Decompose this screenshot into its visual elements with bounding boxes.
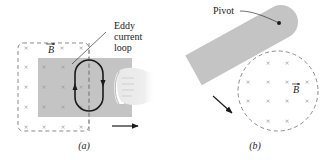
svg-text:×: ×: [304, 97, 309, 104]
eddy-label: Eddy current loop: [114, 20, 143, 53]
svg-text:B: B: [293, 84, 299, 95]
svg-text:×: ×: [284, 97, 289, 104]
svg-text:×: ×: [284, 59, 289, 66]
svg-text:×: ×: [60, 123, 65, 130]
svg-text:×: ×: [60, 103, 65, 110]
svg-text:×: ×: [23, 103, 28, 110]
field-crosses-b: ×× ×××× ×××× ××: [245, 59, 309, 124]
pendulum-plate: [185, 0, 304, 85]
svg-text:×: ×: [265, 78, 270, 85]
svg-text:×: ×: [265, 117, 270, 124]
svg-text:×: ×: [284, 78, 289, 85]
svg-text:×: ×: [78, 123, 83, 130]
eddy-current-figure: ××× ××× ×××× ×××× ×××× B Eddy current lo…: [0, 0, 333, 160]
svg-text:×: ×: [23, 44, 28, 51]
svg-text:×: ×: [304, 78, 309, 85]
motion-arrow-down-right-icon: [213, 96, 232, 113]
svg-text:×: ×: [245, 97, 250, 104]
svg-text:×: ×: [60, 83, 65, 90]
svg-text:×: ×: [59, 44, 64, 51]
panel-b: ×× ×××× ×××× ×× B Pivot (b): [185, 0, 318, 152]
field-label-a: B: [46, 44, 55, 55]
svg-text:×: ×: [23, 63, 28, 70]
svg-text:×: ×: [41, 83, 46, 90]
svg-text:loop: loop: [114, 42, 132, 53]
hand-icon: [114, 68, 156, 105]
svg-text:×: ×: [78, 44, 83, 51]
caption-a: (a): [78, 140, 90, 152]
svg-text:Eddy: Eddy: [114, 20, 135, 31]
svg-text:×: ×: [265, 97, 270, 104]
svg-text:×: ×: [41, 123, 46, 130]
svg-text:×: ×: [78, 83, 83, 90]
svg-text:×: ×: [265, 59, 270, 66]
svg-text:×: ×: [41, 63, 46, 70]
svg-text:×: ×: [60, 63, 65, 70]
svg-text:×: ×: [41, 103, 46, 110]
svg-text:×: ×: [245, 78, 250, 85]
pivot-label: Pivot: [213, 5, 234, 16]
svg-text:×: ×: [23, 83, 28, 90]
field-label-b: B: [292, 84, 300, 95]
svg-text:current: current: [114, 31, 143, 42]
pivot-point: [277, 21, 281, 25]
panel-a: ××× ××× ×××× ×××× ×××× B Eddy current lo…: [18, 20, 156, 152]
field-region-circle: [238, 51, 318, 131]
svg-text:×: ×: [23, 123, 28, 130]
svg-text:B: B: [48, 44, 54, 55]
svg-text:×: ×: [284, 117, 289, 124]
caption-b: (b): [249, 140, 261, 152]
